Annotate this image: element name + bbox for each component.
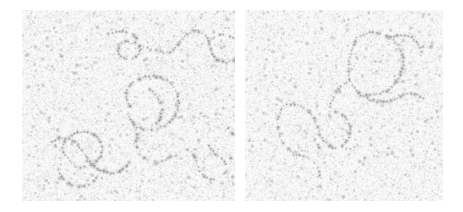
microscopy-figure (0, 0, 463, 212)
micrograph-canvas-left (22, 10, 235, 201)
micrograph-panel-right (245, 10, 443, 201)
micrograph-canvas-right (245, 10, 443, 201)
micrograph-panel-left (22, 10, 235, 201)
